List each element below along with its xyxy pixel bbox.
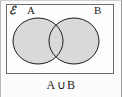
figure-caption: A∪B <box>0 79 122 92</box>
set-b-label: B <box>94 5 101 16</box>
caption-left-set: A <box>46 78 55 92</box>
venn-diagram-figure: ℰ A B A∪B <box>0 0 122 97</box>
universal-set-label: ℰ <box>9 5 16 16</box>
union-operator-symbol: ∪ <box>56 78 68 92</box>
set-a-label: A <box>27 5 35 16</box>
caption-right-set: B <box>67 78 76 92</box>
